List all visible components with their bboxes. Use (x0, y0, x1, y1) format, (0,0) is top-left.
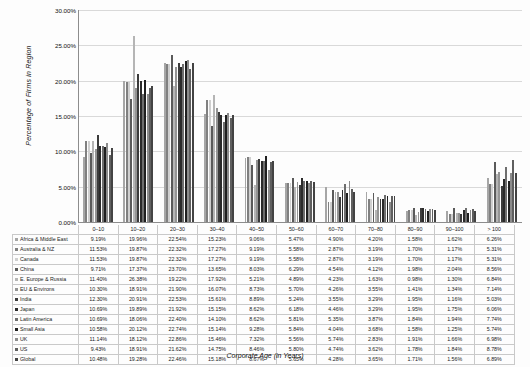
table-cell-value: 18.06% (118, 315, 158, 325)
bar-group (118, 10, 158, 222)
table-row: India12.30%20.91%22.53%15.61%8.89%5.24%3… (13, 295, 515, 305)
table-cell-value: 8.73% (237, 285, 277, 295)
table-cell-value: 4.46% (316, 305, 356, 315)
table-cell-value: 3.68% (356, 325, 396, 335)
bar (192, 63, 194, 222)
table-cell-value: 7.32% (237, 335, 277, 345)
table-cell-value: 5.47% (276, 235, 316, 245)
table-cell-value: 1.91% (395, 335, 435, 345)
table-cell-value: 5.84% (276, 325, 316, 335)
table-cell-value: 9.19% (237, 245, 277, 255)
chart-screenshot: Percentage of Firms in Region 0.00%5.00%… (0, 0, 530, 367)
table-cell-value: 1.58% (395, 235, 435, 245)
table-row: Small Asia10.58%20.12%22.74%15.14%9.28%5… (13, 325, 515, 335)
bar-group (320, 10, 360, 222)
table-column-header: 90–100 (435, 225, 475, 235)
table-cell-value: 6.18% (276, 305, 316, 315)
table-cell-value: 7.74% (474, 315, 514, 325)
bar (515, 173, 517, 222)
table-cell-value: 2.87% (316, 255, 356, 265)
x-axis-line (78, 222, 522, 223)
table-cell-value: 19.22% (158, 275, 198, 285)
y-axis-tick-label: 5.00% (36, 183, 76, 190)
bar (151, 86, 153, 222)
legend-color-swatch-icon (15, 258, 18, 261)
bar (313, 182, 315, 222)
bar (434, 210, 436, 222)
bar-group (441, 10, 481, 222)
bar-group (361, 10, 401, 222)
legend-series-label: UK (13, 335, 79, 345)
y-axis-ticks: 0.00%5.00%10.00%15.00%20.00%25.00%30.00% (30, 10, 76, 222)
table-cell-value: 15.14% (197, 325, 237, 335)
legend-series-label: Small Asia (13, 325, 79, 335)
table-cell-value: 15.61% (197, 295, 237, 305)
table-cell-value: 19.87% (118, 255, 158, 265)
table-cell-value: 7.14% (474, 285, 514, 295)
table-cell-value: 22.32% (158, 245, 198, 255)
table-row: UK11.14%18.12%22.86%15.46%7.32%5.56%5.74… (13, 335, 515, 345)
table-cell-value: 1.95% (395, 305, 435, 315)
bar-group (199, 10, 239, 222)
table-cell-value: 11.53% (79, 245, 119, 255)
table-cell-value: 5.70% (276, 285, 316, 295)
legend-series-label: Australia & NZ (13, 245, 79, 255)
table-row: EU & Environs10.30%18.91%21.90%16.07%8.7… (13, 285, 515, 295)
table-cell-value: 5.31% (474, 255, 514, 265)
legend-series-label: Japan (13, 305, 79, 315)
table-cell-value: 1.17% (435, 245, 475, 255)
table-cell-value: 1.70% (395, 245, 435, 255)
table-cell-value: 1.30% (435, 275, 475, 285)
legend-series-label: India (13, 295, 79, 305)
table-cell-value: 3.87% (356, 315, 396, 325)
table-cell-value: 17.27% (197, 245, 237, 255)
table-cell-value: 5.24% (276, 295, 316, 305)
table-cell-value: 3.55% (356, 285, 396, 295)
table-cell-value: 19.96% (118, 235, 158, 245)
table-cell-value: 3.19% (356, 255, 396, 265)
table-cell-value: 1.84% (395, 315, 435, 325)
table-column-header: > 100 (474, 225, 514, 235)
legend-color-swatch-icon (15, 308, 18, 311)
table-cell-value: 1.16% (435, 295, 475, 305)
table-cell-value: 4.26% (316, 285, 356, 295)
table-cell-value: 1.70% (395, 255, 435, 265)
legend-color-swatch-icon (15, 288, 18, 291)
table-column-header: 60–70 (316, 225, 356, 235)
table-cell-value: 1.62% (435, 235, 475, 245)
table-cell-value: 17.27% (197, 255, 237, 265)
table-cell-value: 22.40% (158, 315, 198, 325)
table-cell-value: 5.21% (237, 275, 277, 285)
y-axis-tick-label: 25.00% (36, 42, 76, 49)
table-cell-value: 0.98% (395, 275, 435, 285)
table-row: Latin America10.69%18.06%22.40%14.10%8.6… (13, 315, 515, 325)
table-cell-value: 15.46% (197, 335, 237, 345)
table-cell-value: 13.65% (197, 265, 237, 275)
legend-series-label: Africa & Middle East (13, 235, 79, 245)
bar (474, 211, 476, 222)
bar (353, 192, 355, 222)
table-row: Australia & NZ11.53%19.87%22.32%17.27%9.… (13, 245, 515, 255)
legend-color-swatch-icon (15, 248, 18, 251)
table-cell-value: 14.10% (197, 315, 237, 325)
table-cell-value: 10.58% (79, 325, 119, 335)
table-cell-value: 22.32% (158, 255, 198, 265)
table-cell-value: 22.74% (158, 325, 198, 335)
table-cell-value: 4.90% (316, 235, 356, 245)
table-cell-value: 3.29% (356, 295, 396, 305)
legend-color-swatch-icon (15, 318, 18, 321)
bar-group (239, 10, 279, 222)
table-cell-value: 9.28% (237, 325, 277, 335)
bar-group (482, 10, 522, 222)
x-axis-title: Corporate Age (in Years) (0, 352, 530, 359)
table-cell-value: 3.55% (316, 295, 356, 305)
table-column-header: 40–50 (237, 225, 277, 235)
bar-groups (78, 10, 522, 222)
table-cell-value: 1.98% (395, 265, 435, 275)
table-cell-value: 19.87% (118, 245, 158, 255)
table-cell-value: 19.89% (118, 305, 158, 315)
legend-series-label: EU & Environs (13, 285, 79, 295)
table-column-header: 30–40 (197, 225, 237, 235)
table-cell-value: 17.92% (197, 275, 237, 285)
bar-group (280, 10, 320, 222)
